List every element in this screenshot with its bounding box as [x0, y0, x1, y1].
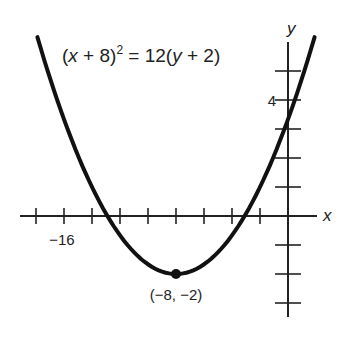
y-axis-label: y	[286, 19, 297, 38]
vertex-label: (−8, −2)	[150, 286, 203, 303]
equation-label: (x + 8)2 = 12(y + 2)	[62, 43, 220, 66]
vertex-point	[171, 269, 181, 279]
x-axis-label: x	[322, 206, 332, 225]
y-tick-label-4: 4	[268, 92, 276, 109]
parabola-curve	[37, 37, 314, 274]
axes	[20, 42, 317, 317]
parabola-chart: (x + 8)2 = 12(y + 2) y x −16 4 (−8, −2)	[0, 0, 347, 343]
x-tick-label-neg16: −16	[49, 231, 74, 248]
